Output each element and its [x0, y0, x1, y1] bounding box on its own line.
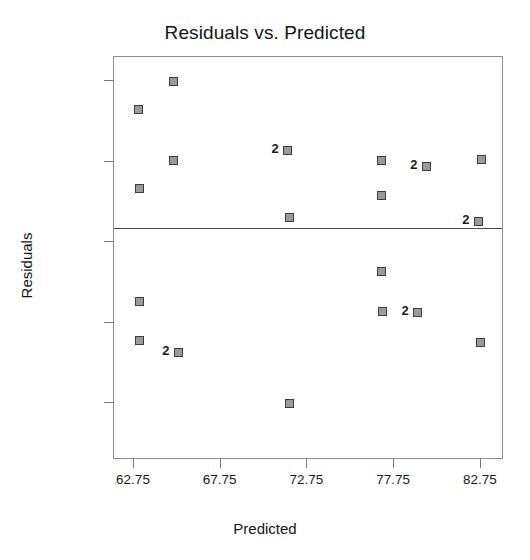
data-point — [285, 399, 294, 408]
data-point — [422, 162, 431, 171]
data-point — [377, 191, 386, 200]
zero-reference-line — [114, 228, 502, 229]
data-point — [135, 184, 144, 193]
data-point — [377, 156, 386, 165]
data-point — [169, 156, 178, 165]
data-point — [378, 307, 387, 316]
y-axis-tick — [104, 241, 113, 242]
data-point — [283, 146, 292, 155]
y-axis-tick — [104, 161, 113, 162]
data-point — [285, 213, 294, 222]
y-axis-tick — [104, 402, 113, 403]
data-point — [135, 297, 144, 306]
y-axis-label: Residuals — [18, 206, 35, 326]
data-point — [134, 105, 143, 114]
x-axis-tick-label: 67.75 — [203, 472, 237, 487]
data-point — [169, 77, 178, 86]
x-axis-tick — [220, 459, 221, 468]
data-point — [377, 267, 386, 276]
data-point — [413, 308, 422, 317]
data-point — [174, 348, 183, 357]
x-axis-tick-label: 62.75 — [116, 472, 150, 487]
x-axis-tick-label: 72.75 — [289, 472, 323, 487]
data-point — [477, 155, 486, 164]
data-point — [135, 336, 144, 345]
data-point — [474, 217, 483, 226]
data-point-count-label: 2 — [410, 158, 417, 171]
plot-area: 22222 — [113, 56, 503, 459]
x-axis-label: Predicted — [0, 520, 530, 537]
data-point-count-label: 2 — [462, 213, 469, 226]
data-point-count-label: 2 — [402, 304, 409, 317]
x-axis-tick — [393, 459, 394, 468]
data-point-count-label: 2 — [271, 142, 278, 155]
x-axis-tick — [480, 459, 481, 468]
x-axis-tick — [133, 459, 134, 468]
x-axis-tick — [306, 459, 307, 468]
y-axis-tick — [104, 80, 113, 81]
data-point — [476, 338, 485, 347]
y-axis-tick — [104, 322, 113, 323]
data-point-count-label: 2 — [162, 344, 169, 357]
x-axis-tick-label: 82.75 — [463, 472, 497, 487]
residual-plot-figure: Residuals vs. Predicted Residuals Predic… — [0, 0, 530, 560]
chart-title: Residuals vs. Predicted — [0, 22, 530, 44]
x-axis-tick-label: 77.75 — [376, 472, 410, 487]
